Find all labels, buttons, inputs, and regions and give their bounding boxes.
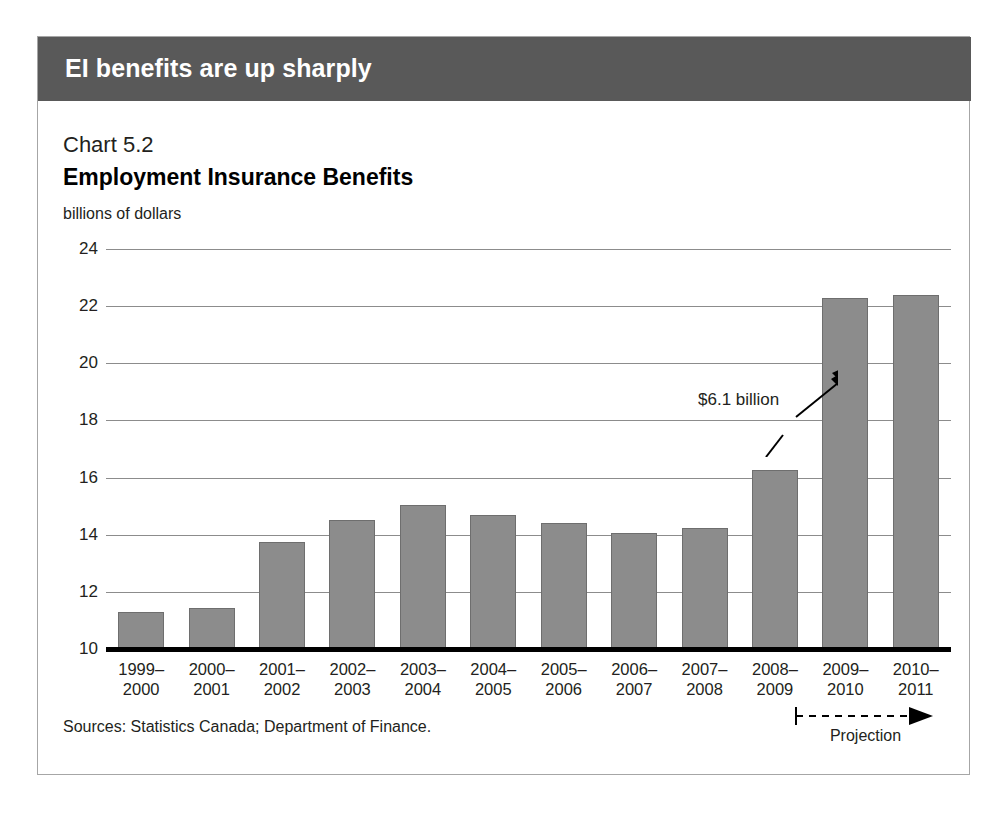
bar xyxy=(189,608,235,651)
y-axis-tick-label: 16 xyxy=(56,469,98,486)
x-axis-tick-label: 2009–2010 xyxy=(808,659,882,699)
bar xyxy=(470,515,516,651)
x-axis-tick-label-line: 2006 xyxy=(527,679,601,699)
axis-baseline xyxy=(106,647,951,652)
x-axis-tick-label-line: 2004– xyxy=(456,659,530,679)
x-axis-tick-label-line: 2011 xyxy=(879,679,953,699)
gridline xyxy=(106,249,951,250)
x-axis-tick-label-line: 1999– xyxy=(104,659,178,679)
bar xyxy=(893,295,939,651)
x-axis-tick-label-line: 2010 xyxy=(808,679,882,699)
x-axis-tick-label-line: 2002 xyxy=(245,679,319,699)
x-axis-tick-label-line: 2005 xyxy=(456,679,530,699)
x-axis-tick-label-line: 2004 xyxy=(386,679,460,699)
bar xyxy=(752,470,798,651)
y-axis-tick-label: 10 xyxy=(56,640,98,657)
y-axis-tick-label: 20 xyxy=(56,354,98,371)
x-axis-tick-label: 1999–2000 xyxy=(104,659,178,699)
chart-figure: EI benefits are up sharply Chart 5.2 Emp… xyxy=(37,36,970,775)
projection-label: Projection xyxy=(793,727,938,745)
x-axis-tick-label: 2004–2005 xyxy=(456,659,530,699)
x-axis-tick-label: 2007–2008 xyxy=(668,659,742,699)
x-axis-tick-label-line: 2001 xyxy=(175,679,249,699)
bar xyxy=(541,523,587,651)
bar xyxy=(400,505,446,651)
y-axis-tick-label: 12 xyxy=(56,583,98,600)
x-axis-tick-label-line: 2007 xyxy=(597,679,671,699)
bar xyxy=(118,612,164,651)
sources-note: Sources: Statistics Canada; Department o… xyxy=(63,718,431,736)
x-axis-tick-label-line: 2002– xyxy=(315,659,389,679)
y-axis-tick-label: 18 xyxy=(56,411,98,428)
x-axis-tick-label: 2002–2003 xyxy=(315,659,389,699)
projection-marker: Projection xyxy=(793,705,938,755)
x-axis-tick-label: 2000–2001 xyxy=(175,659,249,699)
x-axis-tick-label: 2008–2009 xyxy=(738,659,812,699)
x-axis-tick-label-line: 2007– xyxy=(668,659,742,679)
x-axis-tick-label-line: 2008 xyxy=(668,679,742,699)
bar xyxy=(329,520,375,651)
x-axis-tick-label-line: 2003 xyxy=(315,679,389,699)
x-axis-tick-label-line: 2000 xyxy=(104,679,178,699)
x-axis-tick-label-line: 2008– xyxy=(738,659,812,679)
x-axis-tick-label-line: 2000– xyxy=(175,659,249,679)
bar xyxy=(822,298,868,651)
x-axis-tick-label: 2003–2004 xyxy=(386,659,460,699)
bar xyxy=(682,528,728,651)
annotation-label: $6.1 billion xyxy=(698,390,779,410)
y-axis-tick-label: 22 xyxy=(56,297,98,314)
bar xyxy=(611,533,657,651)
x-axis-tick-label: 2005–2006 xyxy=(527,659,601,699)
x-axis-tick-label-line: 2009 xyxy=(738,679,812,699)
x-axis-tick-label: 2001–2002 xyxy=(245,659,319,699)
x-axis-tick-label-line: 2001– xyxy=(245,659,319,679)
plot-area: 1012141618202224 1999–20002000–20012001–… xyxy=(38,37,971,776)
y-axis-tick-label: 24 xyxy=(56,240,98,257)
x-axis-tick-label-line: 2005– xyxy=(527,659,601,679)
x-axis-tick-label-line: 2010– xyxy=(879,659,953,679)
x-axis-tick-label-line: 2003– xyxy=(386,659,460,679)
x-axis-tick-label-line: 2009– xyxy=(808,659,882,679)
x-axis-tick-label: 2006–2007 xyxy=(597,659,671,699)
x-axis-tick-label-line: 2006– xyxy=(597,659,671,679)
y-axis-tick-label: 14 xyxy=(56,526,98,543)
x-axis-tick-label: 2010–2011 xyxy=(879,659,953,699)
bar xyxy=(259,542,305,651)
